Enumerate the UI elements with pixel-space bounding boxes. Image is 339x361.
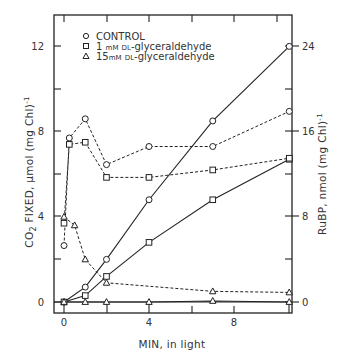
y-right-label-8: 8: [302, 211, 308, 222]
x-axis-title: MIN, in light: [139, 338, 206, 350]
circle-marker-icon: [146, 197, 152, 203]
series-line-3: [64, 111, 289, 245]
square-marker-icon: [210, 167, 216, 173]
square-marker-icon: [146, 240, 152, 246]
circle-marker-icon: [66, 135, 72, 141]
legend-15mm: 15mM DL-glyceraldehyde: [96, 51, 215, 62]
y-left-label-12: 12: [31, 41, 44, 52]
x-label-4: 4: [146, 317, 152, 328]
square-marker-icon: [286, 155, 292, 161]
series-line-2: [64, 301, 289, 302]
x-label-8: 8: [231, 317, 237, 328]
circle-marker-icon: [286, 43, 292, 49]
y-right-axis-title: RuBP, nmol (mg Chl)-1: [316, 113, 328, 235]
triangle-marker-icon: [82, 256, 88, 262]
y-left-label-0: 0: [38, 297, 44, 308]
circle-marker-icon: [61, 243, 67, 249]
y-left-label-8: 8: [38, 126, 44, 137]
circle-marker-icon: [210, 144, 216, 150]
x-top-ticks: [64, 15, 277, 22]
y-right-label-16: 16: [302, 126, 315, 137]
circle-marker-icon: [210, 118, 216, 124]
square-marker-icon: [67, 142, 73, 148]
square-marker-icon: [82, 139, 88, 145]
series-layer: [61, 43, 293, 305]
square-marker-icon: [146, 175, 152, 181]
y-right-label-0: 0: [302, 297, 308, 308]
triangle-marker-icon: [71, 222, 77, 228]
y-left-label-4: 4: [38, 211, 44, 222]
x-bottom-ticks: [64, 302, 289, 313]
square-marker-icon: [61, 220, 67, 226]
chart: 0 4 8 12 0 8 16 24 0 4 8 MIN, in light C…: [0, 0, 339, 361]
circle-marker-icon: [286, 108, 292, 114]
legend-triangle-icon: [83, 53, 89, 59]
square-marker-icon: [210, 197, 216, 203]
series-line-5: [64, 217, 289, 293]
legend-circle-icon: [83, 33, 88, 38]
series-line-4: [64, 142, 289, 223]
circle-marker-icon: [82, 284, 88, 290]
circle-marker-icon: [82, 116, 88, 122]
y-left-axis-title: CO2 FIXED, μmol (mg Chl)-1: [23, 96, 38, 247]
circle-marker-icon: [104, 162, 110, 168]
legend: CONTROL 1 mM DL-glyceraldehyde 15mM DL-g…: [83, 31, 215, 62]
x-label-0: 0: [61, 317, 67, 328]
circle-marker-icon: [146, 144, 152, 150]
square-marker-icon: [104, 175, 110, 181]
legend-square-icon: [84, 44, 89, 49]
circle-marker-icon: [104, 256, 110, 262]
triangle-marker-icon: [61, 213, 67, 219]
y-right-label-24: 24: [302, 41, 315, 52]
y-left-ticks: [54, 46, 61, 302]
series-line-1: [64, 159, 289, 302]
